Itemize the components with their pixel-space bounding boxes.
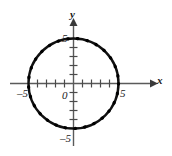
x-axis [10,80,158,88]
x-tick-label-minus-5: –5 [17,88,28,99]
graph-figure: y x 5 –5 5 –5 0 [0,0,172,156]
origin-label: 0 [62,90,68,101]
x-axis-label: x [157,75,163,86]
y-axis-label: y [70,9,75,20]
y-tick-label-5: 5 [62,33,68,44]
y-tick-label-minus-5: –5 [60,133,71,144]
y-axis [70,18,78,146]
x-tick-label-5: 5 [120,88,126,99]
coordinate-plane [0,0,172,156]
